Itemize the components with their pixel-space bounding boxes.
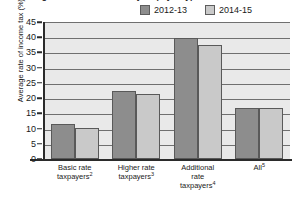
chart-legend: 2012-13 2014-15 xyxy=(140,5,252,15)
y-axis-tick-label: 40 xyxy=(26,33,36,42)
bar-0-0[interactable] xyxy=(51,124,75,159)
x-axis-labels: Basic ratetaxpayers2Higher ratetaxpayers… xyxy=(44,163,290,190)
y-axis-tick-label: 25 xyxy=(26,78,36,87)
y-axis-tick-mark xyxy=(37,21,42,23)
y-axis-tick-mark xyxy=(37,36,42,38)
bar-0-1[interactable] xyxy=(112,91,136,159)
y-axis-tick-mark xyxy=(37,52,42,54)
legend-label-2012-13: 2012-13 xyxy=(154,6,187,15)
bar-group xyxy=(229,22,291,159)
y-axis-tick-mark xyxy=(37,113,42,115)
bars-layer xyxy=(44,22,290,159)
y-axis-tick-label: 35 xyxy=(26,48,36,57)
legend-item-2014-15[interactable]: 2014-15 xyxy=(205,5,252,15)
bar-1-0[interactable] xyxy=(75,128,99,159)
bar-group xyxy=(167,22,229,159)
legend-item-2012-13[interactable]: 2012-13 xyxy=(140,5,187,15)
legend-swatch-2014-15 xyxy=(205,5,215,15)
y-axis-tick-mark xyxy=(37,128,42,130)
y-axis-tick-label: 5 xyxy=(31,139,36,148)
x-axis-label: Additionalratetaxpayers4 xyxy=(167,163,229,190)
legend-label-2014-15: 2014-15 xyxy=(219,6,252,15)
y-axis-tick-mark xyxy=(37,82,42,84)
chart-title: Average rate of income tax by taxpayer t… xyxy=(18,0,300,3)
x-axis-label: Basic ratetaxpayers2 xyxy=(44,163,106,190)
y-axis-tick-label: 0 xyxy=(31,155,36,164)
y-axis-tick-mark xyxy=(37,97,42,99)
y-axis-tick-label: 10 xyxy=(26,124,36,133)
bar-1-3[interactable] xyxy=(259,108,283,159)
legend-swatch-2012-13 xyxy=(140,5,150,15)
x-axis-line xyxy=(30,159,292,161)
bar-0-2[interactable] xyxy=(174,38,198,159)
bar-chart-figure: Average rate of income tax by taxpayer t… xyxy=(0,0,300,200)
bar-0-3[interactable] xyxy=(235,108,259,159)
x-axis-label: All5 xyxy=(229,163,291,190)
bar-1-2[interactable] xyxy=(198,45,222,159)
y-axis-tick-label: 15 xyxy=(26,109,36,118)
y-axis-tick-label: 20 xyxy=(26,94,36,103)
y-axis-tick-mark xyxy=(37,143,42,145)
bar-group xyxy=(106,22,168,159)
y-axis-title: Average rate of income tax (%) xyxy=(16,0,25,121)
y-axis-tick-label: 30 xyxy=(26,63,36,72)
x-axis-label: Higher ratetaxpayers3 xyxy=(106,163,168,190)
bar-group xyxy=(44,22,106,159)
y-axis-tick-label: 45 xyxy=(26,18,36,27)
y-axis-tick-mark xyxy=(37,67,42,69)
y-axis-tick-mark xyxy=(37,158,42,160)
bar-1-1[interactable] xyxy=(136,94,160,159)
